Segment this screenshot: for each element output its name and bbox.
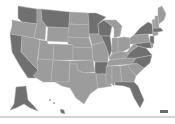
state-mt[interactable]: [41, 9, 70, 28]
state-ks[interactable]: [73, 47, 93, 60]
legend-scale-mark: [160, 110, 168, 113]
state-oh[interactable]: [118, 37, 130, 52]
state-co[interactable]: [53, 44, 73, 60]
state-hi-islet: [53, 102, 55, 104]
state-nm[interactable]: [51, 60, 70, 82]
state-nd[interactable]: [69, 12, 89, 25]
state-hi[interactable]: [60, 109, 65, 114]
state-sd[interactable]: [68, 24, 89, 38]
state-ny[interactable]: [134, 22, 153, 35]
state-wy[interactable]: [47, 27, 69, 42]
state-fl[interactable]: [115, 82, 144, 108]
state-ak[interactable]: [10, 86, 38, 111]
state-ct[interactable]: [153, 32, 158, 36]
state-ma[interactable]: [153, 28, 163, 32]
state-hi-islet: [49, 99, 51, 101]
bottom-divider: [0, 116, 175, 118]
state-ut[interactable]: [38, 40, 54, 60]
state-me[interactable]: [158, 6, 166, 24]
state-wa[interactable]: [18, 6, 37, 24]
state-in[interactable]: [112, 38, 118, 54]
us-choropleth-map: [0, 0, 175, 124]
state-ms[interactable]: [106, 66, 112, 84]
